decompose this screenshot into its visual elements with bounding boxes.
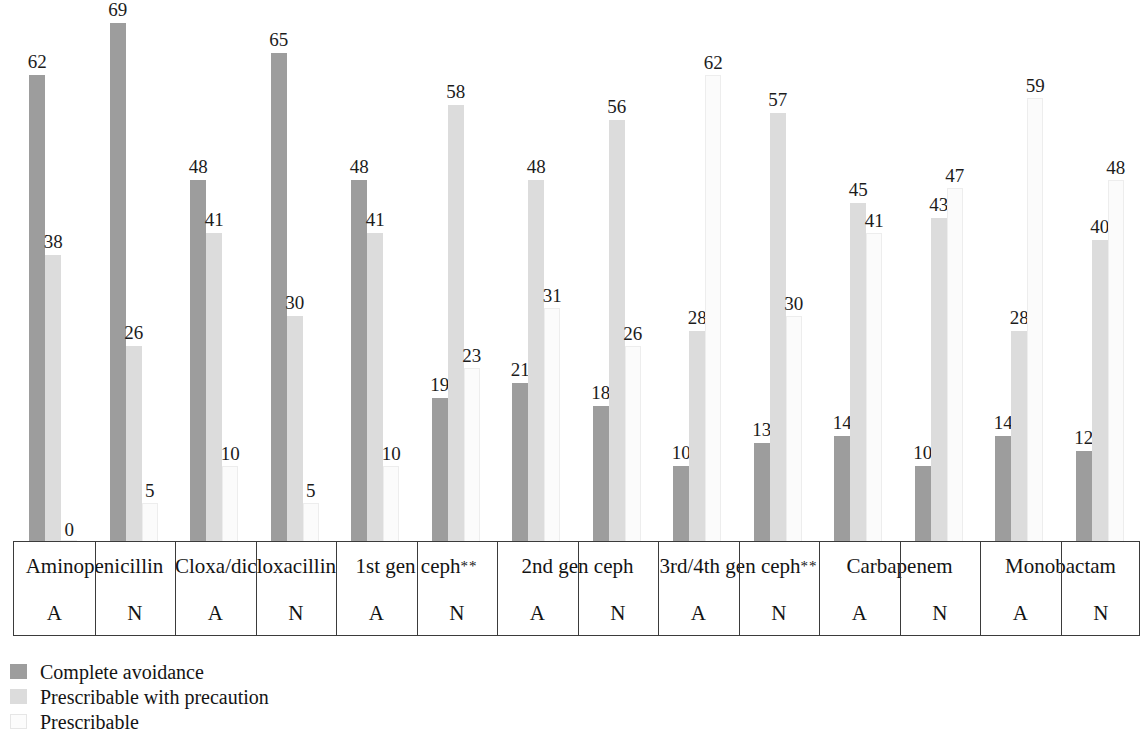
axis-divider	[336, 542, 337, 636]
bar-value-label: 57	[768, 90, 787, 110]
bar-group: 69265	[94, 0, 175, 541]
bar-value-label: 18	[591, 383, 610, 403]
x-axis-table: AminopenicillinCloxa/dicloxacillin1st ge…	[13, 541, 1140, 636]
bar: 41	[206, 233, 222, 541]
bar-value-label: 26	[124, 323, 143, 343]
bar: 47	[947, 188, 963, 541]
legend-label: Complete avoidance	[40, 660, 204, 684]
footnote-marker: **	[801, 554, 818, 578]
bar-value-label: 43	[929, 195, 948, 215]
bar-group: 135730	[738, 0, 819, 541]
bar: 31	[544, 308, 560, 541]
bar-value-label: 26	[623, 324, 642, 344]
bar-cluster: 142859	[979, 0, 1060, 541]
bar-cluster: 102862	[657, 0, 738, 541]
legend-item: Prescribable with precaution	[10, 684, 510, 709]
bar: 10	[383, 466, 399, 541]
legend-swatch-icon	[10, 664, 27, 679]
bar-value-label: 62	[28, 52, 47, 72]
bar-cluster: 144541	[818, 0, 899, 541]
bar: 26	[126, 346, 142, 541]
axis-divider	[900, 542, 901, 636]
axis-subcolumn-label: N	[417, 590, 498, 636]
axis-divider	[497, 542, 498, 636]
legend-item: Complete avoidance	[10, 659, 510, 684]
bar-group: 102862	[657, 0, 738, 541]
bar: 10	[673, 466, 689, 541]
axis-divider	[739, 542, 740, 636]
bar-cluster: 124048	[1060, 0, 1141, 541]
bar-value-label: 47	[945, 166, 964, 186]
bar-group: 484110	[335, 0, 416, 541]
bar: 62	[29, 75, 45, 541]
bar-value-label: 10	[913, 443, 932, 463]
bar: 28	[689, 331, 705, 541]
bar-value-label: 5	[306, 481, 316, 501]
bar-cluster: 185626	[577, 0, 658, 541]
axis-subcolumn-label: A	[658, 590, 739, 636]
bar-value-label: 48	[350, 157, 369, 177]
bar: 57	[770, 113, 786, 541]
bar-value-label: 14	[994, 413, 1013, 433]
axis-subcolumn-label: A	[175, 590, 256, 636]
bar: 38	[45, 255, 61, 541]
bar-value-label: 62	[704, 53, 723, 73]
axis-subcolumn-label: N	[256, 590, 337, 636]
axis-divider	[175, 542, 176, 636]
bar-cluster: 195823	[416, 0, 497, 541]
legend-swatch-icon	[10, 689, 27, 704]
axis-subcolumn-label: A	[980, 590, 1061, 636]
axis-divider	[658, 542, 659, 636]
bar-value-label: 38	[44, 232, 63, 252]
bar-cluster: 484110	[174, 0, 255, 541]
axis-divider	[417, 542, 418, 636]
bar: 62	[705, 75, 721, 541]
bar: 23	[464, 368, 480, 541]
bar: 10	[222, 466, 238, 541]
bar-group: 124048	[1060, 0, 1141, 541]
axis-group-row: AminopenicillinCloxa/dicloxacillin1st ge…	[14, 542, 1139, 590]
bar-group: 185626	[577, 0, 658, 541]
bar-value-label: 30	[784, 294, 803, 314]
bar-value-label: 0	[65, 520, 75, 540]
bar-value-label: 48	[189, 157, 208, 177]
bar: 21	[512, 383, 528, 541]
axis-divider	[819, 542, 820, 636]
bar-group: 104347	[899, 0, 980, 541]
bar-cluster: 214831	[496, 0, 577, 541]
bar-value-label: 41	[366, 210, 385, 230]
bar-value-label: 31	[543, 286, 562, 306]
bar-group: 484110	[174, 0, 255, 541]
axis-divider	[980, 542, 981, 636]
bar: 48	[1108, 180, 1124, 541]
bar-value-label: 30	[285, 293, 304, 313]
axis-subcolumn-label: N	[739, 590, 820, 636]
bar: 48	[528, 180, 544, 541]
bar-cluster: 135730	[738, 0, 819, 541]
bar-value-label: 69	[108, 0, 127, 20]
bar-value-label: 21	[511, 360, 530, 380]
bar-value-label: 41	[865, 211, 884, 231]
bar: 14	[834, 436, 850, 541]
bar: 48	[190, 180, 206, 541]
bar: 14	[995, 436, 1011, 541]
plot-area: 6238069265484110653054841101958232148311…	[13, 0, 1140, 541]
bar-group: 214831	[496, 0, 577, 541]
bar-group: 144541	[818, 0, 899, 541]
bar: 41	[866, 233, 882, 541]
bar-value-label: 10	[672, 443, 691, 463]
axis-divider	[256, 542, 257, 636]
bar: 19	[432, 398, 448, 541]
bar-value-label: 40	[1090, 217, 1109, 237]
legend-item: Prescribable	[10, 709, 510, 734]
bar: 43	[931, 218, 947, 541]
bar-value-label: 59	[1026, 76, 1045, 96]
bar: 30	[786, 316, 802, 541]
bar-value-label: 48	[1106, 158, 1125, 178]
axis-subcolumn-row: ANANANANANANAN	[14, 590, 1139, 636]
bar-value-label: 45	[849, 180, 868, 200]
bar-value-label: 65	[269, 30, 288, 50]
bar-group: 142859	[979, 0, 1060, 541]
axis-subcolumn-label: N	[578, 590, 659, 636]
bar: 28	[1011, 331, 1027, 541]
